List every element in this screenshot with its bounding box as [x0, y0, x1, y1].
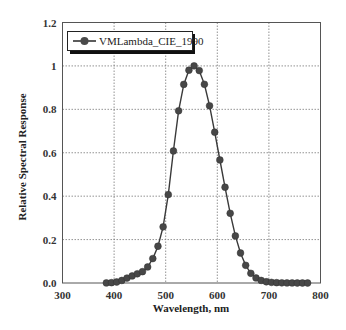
data-point-marker [180, 81, 187, 88]
data-point-marker [201, 81, 208, 88]
series-line [106, 66, 307, 283]
y-tick-label: 1.2 [43, 17, 57, 29]
data-point-marker [175, 107, 182, 114]
data-point-marker [144, 264, 151, 271]
x-tick-label: 500 [157, 289, 174, 301]
y-tick-label: 0.0 [43, 277, 57, 289]
legend-marker-icon [81, 37, 89, 45]
data-point-marker [227, 210, 234, 217]
x-axis-title: Wavelength, nm [153, 302, 229, 314]
legend-label: VMLambda_CIE_1990 [99, 35, 204, 47]
y-tick-label: 0.8 [43, 103, 57, 115]
x-tick-label: 600 [209, 289, 226, 301]
data-point-marker [304, 280, 311, 287]
y-tick-label: 0.6 [43, 147, 57, 159]
data-point-marker [216, 157, 223, 164]
x-tick-label: 400 [106, 289, 123, 301]
data-point-marker [232, 232, 239, 239]
data-point-marker [165, 191, 172, 198]
y-axis-title: Relative Spectral Response [16, 93, 28, 220]
data-point-marker [211, 129, 218, 136]
y-tick-label: 0.2 [43, 234, 57, 246]
x-axis-ticks: 300400500600700800 [54, 289, 329, 301]
data-point-marker [206, 102, 213, 109]
y-axis-ticks: 0.00.20.40.60.811.2 [43, 17, 57, 290]
data-series-vmlambda [103, 62, 311, 286]
data-point-marker [160, 223, 167, 230]
grid-lines [63, 23, 321, 284]
data-point-marker [170, 148, 177, 155]
x-tick-label: 300 [54, 289, 71, 301]
x-tick-label: 700 [261, 289, 278, 301]
data-point-marker [222, 184, 229, 191]
legend: VMLambda_CIE_1990 [68, 32, 204, 55]
x-tick-label: 800 [312, 289, 329, 301]
y-tick-label: 1 [51, 60, 57, 72]
data-point-marker [237, 250, 244, 257]
data-point-marker [242, 262, 249, 269]
data-point-marker [155, 243, 162, 250]
spectral-response-chart: 0.00.20.40.60.811.2 300400500600700800 V… [0, 0, 346, 330]
y-tick-label: 0.4 [43, 190, 57, 202]
data-point-marker [196, 67, 203, 74]
data-point-marker [149, 255, 156, 262]
